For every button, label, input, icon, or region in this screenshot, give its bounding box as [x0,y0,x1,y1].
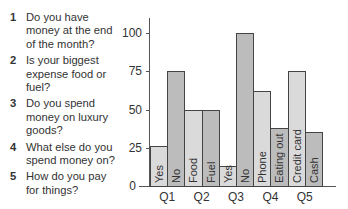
bar-label: Yes [222,165,234,183]
x-tick-label: Q5 [288,190,322,204]
bar-chart: 0255075100YesNoFoodFuelYesNoPhoneEating … [0,0,348,209]
bar: No [236,33,254,187]
bar: No [167,71,185,187]
x-tick-label: Q1 [150,190,184,204]
bar: Credit card [288,71,306,187]
y-tick-label: 75 [112,65,142,77]
bar-label: Credit card [291,129,303,183]
y-tick-label: 50 [112,104,142,116]
bar-label: No [239,169,251,183]
y-tick [146,148,149,149]
x-tick-label: Q3 [219,190,253,204]
bar-label: Fuel [205,162,217,183]
bar-label: Cash [308,157,320,183]
y-tick [146,71,149,72]
y-tick [146,186,149,187]
x-tick-label: Q2 [185,190,219,204]
bar-label: No [170,169,182,183]
bar-label: Food [187,158,199,183]
bar: Yes [150,146,168,187]
bar-label: Yes [153,165,165,183]
y-tick [146,110,149,111]
bar: Cash [305,132,323,187]
bar: Fuel [202,110,220,188]
x-tick-label: Q4 [253,190,287,204]
y-tick-label: 100 [112,27,142,39]
bar-label: Phone [256,151,268,183]
bar: Eating out [270,128,288,187]
bar: Food [184,110,202,188]
bar: Phone [253,91,271,187]
y-tick [146,33,149,34]
y-tick-label: 0 [106,180,136,192]
bar: Yes [219,166,237,187]
bar-label: Eating out [273,133,285,183]
y-tick-label: 25 [112,142,142,154]
